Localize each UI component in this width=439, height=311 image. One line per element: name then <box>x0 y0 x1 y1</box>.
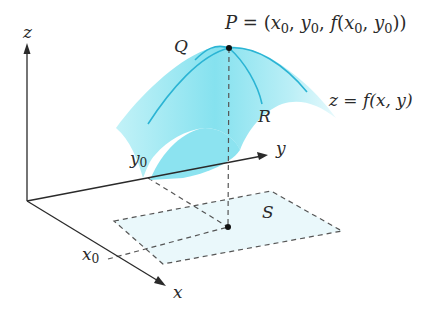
region-s-label: S <box>262 204 274 221</box>
point-p-label: P = (x0, y0, f(x0, y0)) <box>225 14 406 36</box>
diagram-graphic <box>0 0 439 311</box>
z-axis-label: z <box>23 24 32 41</box>
x-axis-label: x <box>173 284 183 301</box>
point-q-label: Q <box>174 38 188 55</box>
z-axis-arrow-icon <box>24 43 31 54</box>
x0-label: x0 <box>82 246 99 266</box>
point-in-region <box>225 224 231 230</box>
surface-equation-label: z = f(x, y) <box>329 92 413 109</box>
x-axis-arrow-icon <box>154 276 166 286</box>
y-axis-arrow-icon <box>257 152 268 160</box>
point-r-label: R <box>258 108 271 125</box>
diagram-canvas: z y x y0 x0 P = (x0, y0, f(x0, y0)) Q R … <box>0 0 439 311</box>
point-p <box>226 45 232 51</box>
y0-label: y0 <box>130 150 147 170</box>
y-axis-label: y <box>276 140 286 157</box>
